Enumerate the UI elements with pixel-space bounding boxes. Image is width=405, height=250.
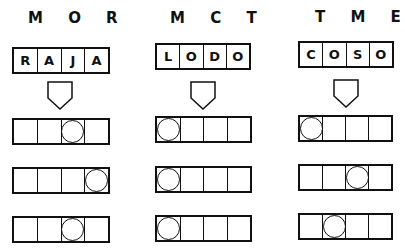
grid-cell — [369, 117, 391, 140]
circle-mark-icon — [157, 217, 180, 240]
word-box: L O D O — [155, 43, 251, 70]
word-letter: L — [157, 45, 180, 68]
grid-cell — [204, 168, 228, 191]
word-letter: O — [180, 45, 203, 68]
grid-cell — [85, 169, 108, 192]
grid-cell — [300, 215, 323, 238]
grid-cell — [228, 217, 251, 240]
grid-cell — [369, 166, 391, 189]
grid-cell — [346, 215, 369, 238]
grid-cell — [204, 217, 228, 240]
circle-mark-icon — [61, 120, 84, 143]
grid-cell — [157, 118, 181, 141]
grid-cell — [323, 117, 346, 140]
down-arrow-icon — [47, 81, 73, 110]
answer-grid-row — [12, 118, 110, 145]
column-header: T M E — [315, 8, 405, 26]
grid-cell — [181, 217, 205, 240]
answer-grid-row — [12, 216, 110, 243]
grid-cell — [85, 120, 108, 143]
grid-cell — [228, 168, 251, 191]
circle-mark-icon — [85, 169, 108, 192]
grid-cell — [346, 117, 369, 140]
down-arrow-icon — [190, 81, 216, 110]
grid-cell — [323, 215, 346, 238]
grid-cell — [85, 218, 108, 241]
answer-grid-row — [155, 166, 252, 193]
grid-cell — [181, 118, 205, 141]
word-letter: A — [85, 49, 108, 72]
answer-grid-row — [155, 215, 252, 242]
word-letter: O — [227, 45, 249, 68]
grid-cell — [369, 215, 391, 238]
grid-cell — [300, 166, 323, 189]
word-box: C O S O — [298, 41, 394, 68]
grid-cell — [14, 120, 38, 143]
column-header: M O R — [28, 9, 128, 27]
grid-cell — [62, 218, 86, 241]
grid-cell — [323, 166, 346, 189]
word-letter: D — [204, 45, 227, 68]
grid-cell — [62, 169, 86, 192]
word-letter: R — [14, 49, 38, 72]
answer-grid-row — [298, 115, 393, 142]
grid-cell — [300, 117, 323, 140]
word-letter: S — [347, 43, 370, 66]
grid-cell — [157, 217, 181, 240]
grid-cell — [62, 120, 86, 143]
grid-cell — [38, 218, 62, 241]
word-box: R A J A — [12, 47, 110, 74]
circle-mark-icon — [300, 117, 323, 140]
word-letter: O — [370, 43, 392, 66]
grid-cell — [346, 166, 369, 189]
grid-cell — [204, 118, 228, 141]
grid-cell — [14, 169, 38, 192]
grid-cell — [157, 168, 181, 191]
circle-mark-icon — [157, 118, 180, 141]
answer-grid-row — [12, 167, 110, 194]
answer-grid-row — [155, 116, 252, 143]
answer-grid-row — [298, 213, 393, 240]
word-letter: A — [38, 49, 62, 72]
word-letter: O — [323, 43, 346, 66]
grid-cell — [14, 218, 38, 241]
down-arrow-icon — [333, 79, 359, 108]
circle-mark-icon — [323, 215, 346, 238]
column-header: M C T — [170, 9, 267, 27]
word-letter: J — [62, 49, 86, 72]
grid-cell — [228, 118, 251, 141]
word-letter: C — [300, 43, 323, 66]
circle-mark-icon — [61, 218, 84, 241]
grid-cell — [38, 120, 62, 143]
grid-cell — [181, 168, 205, 191]
answer-grid-row — [298, 164, 393, 191]
circle-mark-icon — [346, 166, 369, 189]
circle-mark-icon — [157, 168, 180, 191]
grid-cell — [38, 169, 62, 192]
